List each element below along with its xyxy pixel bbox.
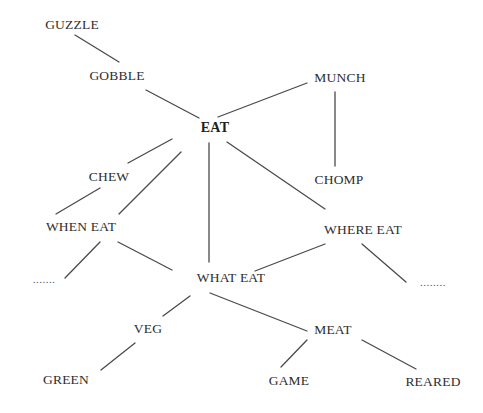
edge-what-eat-to-meat [210,293,307,331]
edge-veg-to-green [101,343,135,370]
edge-guzzle-to-gobble [75,35,119,62]
edge-when-eat-to-dots-left [65,242,100,278]
edge-eat-to-munch [218,83,307,117]
node-what-eat: WHAT EAT [197,270,265,286]
edge-meat-to-reared [362,340,416,369]
edge-gobble-to-eat [146,90,199,118]
node-where-eat: WHERE EAT [324,222,402,238]
node-chomp: CHOMP [314,172,363,188]
node-reared: REARED [405,374,460,390]
edge-what-eat-to-veg [163,296,190,316]
node-meat: MEAT [314,322,352,338]
node-ellipsis-right: ........ [420,274,446,290]
node-munch: MUNCH [314,70,365,86]
eat-semantic-network-diagram: GUZZLE GOBBLE EAT MUNCH CHOMP CHEW WHEN … [0,0,483,413]
node-game: GAME [269,373,310,389]
edge-where-eat-to-what-eat [255,244,325,271]
node-guzzle: GUZZLE [45,17,99,33]
edge-chew-to-when-eat [56,188,100,214]
node-eat-root: EAT [201,120,229,136]
edge-where-eat-to-dots-right [362,244,406,282]
node-when-eat: WHEN EAT [46,219,116,235]
node-ellipsis-left: ....... [33,271,56,287]
edge-eat-to-chew [128,139,172,163]
edge-eat-to-where-eat [227,142,325,209]
edge-when-eat-to-what-eat [118,242,172,270]
node-gobble: GOBBLE [89,68,144,84]
edges-layer [0,0,483,413]
node-veg: VEG [134,321,162,337]
node-green: GREEN [43,372,89,388]
edge-meat-to-game [281,340,307,367]
node-chew: CHEW [89,169,130,185]
